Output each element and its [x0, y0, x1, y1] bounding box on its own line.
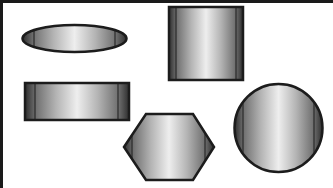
hexagon-shape — [124, 110, 214, 185]
shapes-canvas — [0, 0, 333, 188]
square-shape — [169, 7, 243, 80]
rectangle-shape — [25, 83, 129, 120]
circle-shape — [235, 80, 323, 175]
ellipse-shape — [23, 20, 127, 58]
